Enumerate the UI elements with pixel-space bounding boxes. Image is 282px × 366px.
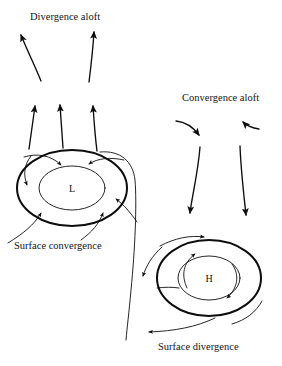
high-downdraft-arrow-right: [240, 146, 246, 215]
label-convergence-aloft: Convergence aloft: [182, 92, 259, 103]
high-outflow-arrow-bottom-left: [149, 318, 215, 332]
label-surface-convergence: Surface convergence: [14, 240, 102, 251]
connecting-flow-group: [100, 152, 162, 340]
low-pressure-letter: L: [69, 183, 75, 194]
connecting-curve-upper: [100, 152, 136, 340]
low-inflow-arrow-bottom: [81, 213, 103, 240]
low-updraft-arrow-right: [93, 106, 97, 151]
high-outflow-arrow-left-mid: [157, 287, 179, 288]
low-updraft-arrow-group: [29, 105, 97, 151]
high-downdraft-arrow-left: [190, 147, 200, 213]
low-updraft-arrow-center: [60, 105, 63, 148]
connecting-arrow-to-high-descend: [143, 247, 162, 276]
connecting-arrow-to-low: [116, 199, 137, 222]
divergence-aloft-arrow-group: [21, 32, 94, 82]
high-outflow-arrow-inner-down: [227, 264, 237, 298]
circulation-svg-canvas: Divergence aloft Convergence aloft Surfa…: [0, 0, 282, 366]
label-surface-divergence: Surface divergence: [158, 341, 239, 352]
low-pressure-spiral-group: [8, 150, 127, 243]
high-pressure-letter: H: [205, 273, 212, 284]
high-downdraft-arrow-group: [190, 146, 246, 215]
low-updraft-arrow-left: [29, 106, 35, 149]
convergence-aloft-arrow-right: [243, 122, 259, 129]
convergence-aloft-arrow-group: [176, 121, 259, 135]
convergence-aloft-arrow-left: [176, 121, 199, 135]
low-inflow-arrow-left: [25, 156, 31, 185]
pressure-circulation-diagram: Divergence aloft Convergence aloft Surfa…: [0, 0, 282, 366]
label-divergence-aloft: Divergence aloft: [30, 11, 100, 22]
divergence-aloft-arrow-right: [89, 32, 94, 82]
divergence-aloft-arrow-left: [21, 35, 41, 81]
high-pressure-spiral-group: [149, 236, 262, 332]
